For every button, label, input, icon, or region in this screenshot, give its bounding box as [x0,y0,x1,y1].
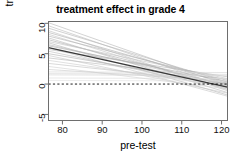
series-line [49,78,228,79]
x-tick-label: 120 [209,124,235,135]
y-tick-label: 0 [35,84,46,100]
y-tick-label: 10 [35,23,46,39]
x-tick-label: 100 [129,124,155,135]
y-tick-label: -5 [35,114,46,130]
y-axis-title: treatment effect [2,0,16,20]
x-tick-label: 110 [169,124,195,135]
series-line [49,72,228,73]
x-axis-title: pre-test [48,139,228,151]
series-line [49,75,228,76]
y-tick-label: 5 [35,53,46,69]
x-tick-label: 90 [89,124,115,135]
x-tick-label: 80 [49,124,75,135]
series-line [49,58,228,79]
series-line-median [49,48,228,87]
chart-figure: treatment effect in grade 4 treatment ef… [0,0,241,160]
